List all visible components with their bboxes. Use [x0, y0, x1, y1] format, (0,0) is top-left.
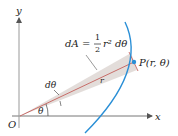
formula-rhs: r² dθ: [103, 38, 127, 49]
point-p: [132, 60, 136, 64]
dtheta-label: dθ: [45, 80, 57, 90]
formula-frac-den: 2: [95, 45, 100, 54]
theta-arc: [46, 104, 48, 116]
theta-label: θ: [38, 106, 44, 116]
dtheta-arrow-top: [54, 90, 59, 95]
y-axis-label: y: [15, 5, 22, 16]
x-axis-label: x: [155, 111, 161, 122]
point-label: P(r, θ): [138, 57, 170, 68]
formula-lhs: dA: [65, 38, 79, 49]
formula-equals: =: [82, 38, 90, 49]
formula-leader-line: [86, 55, 97, 70]
origin-label: O: [8, 119, 16, 130]
formula-frac-num: 1: [95, 33, 100, 42]
dtheta-arrow-bottom: [60, 101, 61, 106]
polar-area-diagram: y x O θ dθ r dA = 1 2 r² dθ P(r, θ): [0, 0, 178, 136]
